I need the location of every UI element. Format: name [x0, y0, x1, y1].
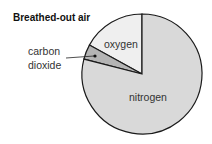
nitrogen-label: nitrogen [129, 91, 167, 103]
pie-slices [82, 14, 202, 134]
pie-chart: Breathed-out air oxygen carbon dioxide n… [0, 0, 212, 144]
carbon-dioxide-label-line1: carbon [28, 45, 60, 57]
oxygen-label: oxygen [104, 38, 138, 50]
chart-title: Breathed-out air [13, 12, 90, 23]
carbon-dioxide-marker-dot [93, 54, 96, 57]
carbon-dioxide-label-line2: dioxide [28, 59, 61, 71]
